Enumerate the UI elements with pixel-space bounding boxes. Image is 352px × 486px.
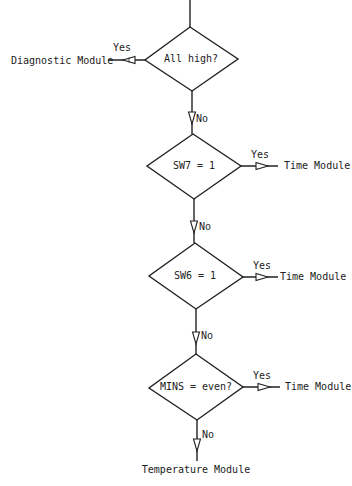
- arrowhead-down-icon: [193, 332, 200, 344]
- arrowhead-down-icon: [194, 439, 201, 451]
- no-label-1: No: [196, 114, 208, 124]
- yes-label-3: Yes: [253, 261, 271, 271]
- no-label-3: No: [201, 331, 213, 341]
- no-label-2: No: [199, 222, 211, 232]
- yes-label-1: Yes: [113, 43, 131, 53]
- flowchart-lines: [0, 0, 352, 486]
- decision-text-2: SW7 = 1: [173, 161, 215, 171]
- target-time-module-3: Time Module: [285, 382, 351, 392]
- flowchart-canvas: All high? Yes Diagnostic Module No SW7 =…: [0, 0, 352, 486]
- target-time-module-1: Time Module: [284, 161, 350, 171]
- target-diagnostic-module: Diagnostic Module: [11, 56, 113, 66]
- yes-label-4: Yes: [253, 371, 271, 381]
- decision-text-3: SW6 = 1: [174, 271, 216, 281]
- decision-text-4: MINS = even?: [160, 382, 232, 392]
- target-time-module-2: Time Module: [280, 272, 346, 282]
- arrowhead-down-icon: [189, 112, 196, 124]
- no-label-4: No: [202, 430, 214, 440]
- target-temperature-module: Temperature Module: [142, 465, 250, 475]
- yes-label-2: Yes: [251, 150, 269, 160]
- decision-text-1: All high?: [164, 54, 218, 64]
- arrowhead-right-icon: [258, 384, 270, 391]
- arrowhead-down-icon: [191, 221, 198, 233]
- arrowhead-right-icon: [256, 163, 268, 170]
- arrowhead-right-icon: [256, 274, 268, 281]
